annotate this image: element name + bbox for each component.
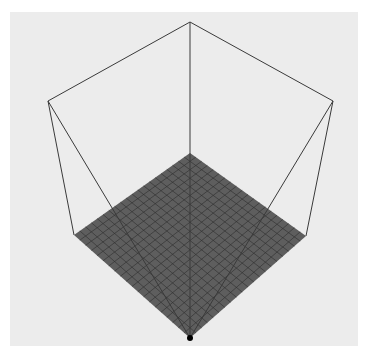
cube-wireframe [48, 22, 333, 338]
origin-point-icon [187, 335, 193, 341]
cube-scene[interactable] [0, 0, 371, 358]
